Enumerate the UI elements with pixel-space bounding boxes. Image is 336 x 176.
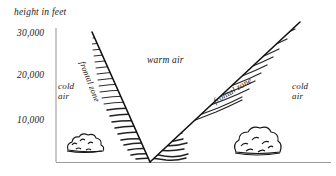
axis-title: height in feet <box>14 7 66 18</box>
shrub-right-icon <box>235 127 282 155</box>
label-cold-air-left: cold air <box>58 81 74 101</box>
y-tick-10000: 10,000 <box>17 115 44 126</box>
label-cold-air-right: cold air <box>292 81 308 101</box>
shrub-left-icon <box>67 134 104 153</box>
y-tick-30000: 30,000 <box>17 28 44 39</box>
frontal-boundary-lines <box>92 22 300 162</box>
cloud-hatching <box>92 16 301 160</box>
frontal-zone-diagram <box>0 0 336 176</box>
y-tick-20000: 20,000 <box>17 70 44 81</box>
label-warm-air: warm air <box>147 55 184 66</box>
